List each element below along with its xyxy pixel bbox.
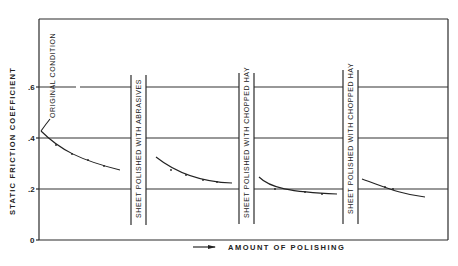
divider-label-chopped-hay-1: SHEET POLISHED WITH CHOPPED HAY — [243, 67, 250, 218]
curve-abrasives — [156, 157, 232, 183]
arrow-right-icon — [208, 245, 216, 249]
original-condition-label: ORIGINAL CONDITION — [49, 33, 56, 118]
friction-chart: .6 .4 .2 0 STATIC FRICTION COEFFICIENT S… — [0, 0, 458, 266]
ytick-label-0: 0 — [30, 236, 35, 245]
divider-label-abrasives: SHEET POLISHED WITH ABRASIVES — [135, 79, 142, 218]
divider-abrasives: SHEET POLISHED WITH ABRASIVES — [131, 75, 146, 225]
ytick-label-0.6: .6 — [28, 83, 35, 92]
ytick-label-0.2: .2 — [28, 185, 35, 194]
curve-original — [41, 131, 120, 170]
divider-chopped-hay-2: SHEET POLISHED WITH CHOPPED HAY — [343, 63, 358, 224]
ytick-label-0.4: .4 — [28, 134, 35, 143]
divider-chopped-hay-1: SHEET POLISHED WITH CHOPPED HAY — [239, 67, 254, 224]
curve-chopped-hay-2 — [362, 179, 425, 197]
divider-label-chopped-hay-2: SHEET POLISHED WITH CHOPPED HAY — [347, 63, 354, 214]
y-axis-label: STATIC FRICTION COEFFICIENT — [8, 67, 17, 215]
x-axis-label: AMOUNT OF POLISHING — [228, 243, 345, 252]
curve-chopped-hay-1 — [259, 177, 337, 194]
original-condition-leader — [41, 119, 50, 131]
